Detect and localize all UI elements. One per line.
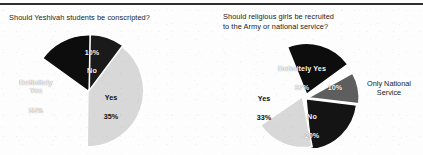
slice-label-no-text: No [87,66,97,75]
slice-label-only-national-service: Only National Service [357,79,421,97]
slice-label-yes-pct: 35% [104,112,119,121]
slice-label-yes-pct: 33% [257,113,272,122]
slice-label-yes-text: Yes [105,93,118,102]
slice-label-only-national-service-pct: 10% [320,84,350,93]
slice-label-no-pct: 20% [305,131,320,140]
chart-panel-yeshivah: Should Yeshivah students be conscripted?… [0,0,211,155]
slice-label-definitely-yes: Definitely Yes 55% [3,70,69,116]
chart-panel-religious-girls: Should religious girls be recruited to t… [211,0,423,155]
slice-label-yes-text: Yes [258,94,271,103]
slice-label-definitely-yes-text: Definitely Yes [278,64,326,73]
slice-label-definitely-yes-pct: 55% [29,106,44,115]
slice-label-no: 10% No [75,40,109,75]
slice-label-no-text: No [307,112,317,121]
chart-title-yeshivah: Should Yeshivah students be conscripted? [9,13,204,23]
slice-label-definitely-yes-text: Definitely Yes [19,78,52,96]
slice-label-yes: Yes 33% [243,86,285,122]
slice-label-definitely-yes-pct: 37% [295,83,310,92]
chart-title-religious-girls: Should religious girls be recruited to t… [223,12,408,31]
slice-label-no-pct: 10% [85,48,100,57]
slice-label-no: No 20% [294,104,330,140]
slice-label-yes: Yes 35% [89,85,133,121]
